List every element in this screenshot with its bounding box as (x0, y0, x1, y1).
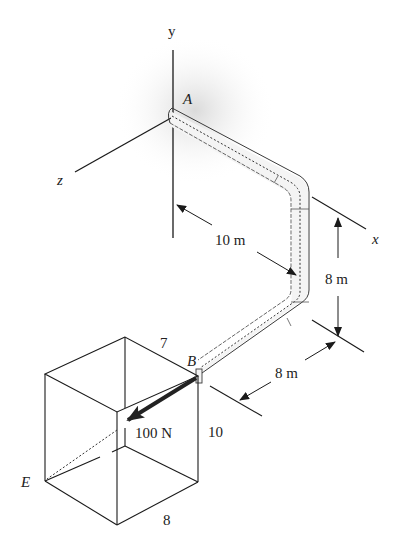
point-a-label: A (182, 91, 193, 107)
dimension-8m-vertical-label: 8 m (325, 271, 348, 287)
point-b-label: B (187, 353, 196, 369)
statics-diagram: y z x A B E 10 m 8 (0, 0, 394, 543)
box-width-label: 7 (160, 335, 168, 351)
point-e-label: E (20, 474, 30, 490)
z-axis-label: z (56, 172, 63, 188)
dimension-8m-depth-label: 8 m (275, 365, 298, 381)
force-arrow: 100 N (128, 378, 196, 441)
dimension-8m-vertical: 8 m (312, 218, 364, 352)
x-axis-label: x (371, 231, 379, 247)
y-axis-label: y (168, 23, 176, 39)
x-axis: x (312, 197, 379, 247)
force-label: 100 N (135, 425, 172, 441)
box-height-label: 10 (208, 424, 223, 440)
line-b-to-e (47, 430, 117, 479)
box (45, 337, 198, 525)
box-depth-label: 8 (163, 512, 171, 528)
dimension-10m: 10 m (177, 205, 296, 275)
dimension-8m-depth: 8 m (210, 342, 335, 416)
dimension-10m-label: 10 m (215, 232, 246, 248)
